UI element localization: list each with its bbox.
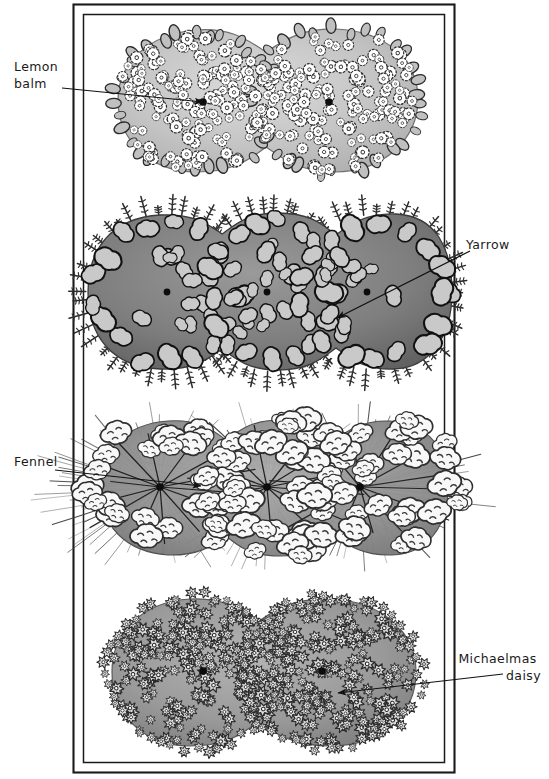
frond-barb	[209, 207, 212, 210]
frond-barb	[315, 372, 319, 373]
label-michaelmas-daisy-line-1: Michaelmas	[458, 651, 536, 666]
leaf	[106, 98, 122, 108]
frond-barb	[437, 227, 439, 230]
frond-barb	[460, 278, 461, 282]
frond-barb	[96, 240, 99, 242]
frond-barb	[103, 353, 105, 356]
frond-barb	[235, 366, 238, 369]
frond-barb	[245, 374, 248, 376]
frond-barb	[351, 381, 354, 383]
frond-barb	[463, 278, 464, 282]
frond-barb	[222, 356, 224, 359]
frond-barb	[447, 241, 448, 245]
frond-barb	[428, 365, 431, 366]
frond-barb	[116, 358, 118, 361]
planting-dot	[156, 483, 164, 491]
frond-barb	[122, 369, 124, 372]
frond-barb	[85, 245, 88, 247]
frond-barb	[226, 223, 230, 224]
frond-barb	[328, 364, 330, 367]
frond-barb	[79, 300, 80, 304]
flower-head	[337, 315, 352, 335]
planting-dot	[356, 483, 364, 491]
frond-barb	[381, 376, 385, 377]
frond-barb	[104, 224, 107, 225]
frond-barb	[218, 364, 222, 365]
planting-dot	[164, 289, 171, 296]
frond-barb	[413, 209, 416, 212]
floret	[178, 745, 191, 758]
planting-dot	[325, 98, 333, 106]
floret	[415, 689, 427, 701]
frond-barb	[411, 213, 414, 216]
plant-band-yarrow	[69, 195, 467, 392]
frond-barb	[76, 301, 77, 305]
flower-head	[85, 295, 101, 316]
frond-barb	[228, 358, 231, 359]
frond-barb	[326, 366, 328, 369]
frond-barb	[446, 351, 449, 353]
frond-barb	[286, 205, 289, 207]
frond-barb	[433, 355, 436, 357]
label-michaelmas-daisy-line-2: daisy	[506, 668, 541, 683]
label-yarrow-line-1: Yarrow	[465, 237, 510, 252]
frond-barb	[82, 300, 83, 304]
planting-dot	[263, 483, 271, 491]
flower-head	[182, 273, 202, 287]
frond-barb	[219, 220, 221, 223]
frond-barb	[388, 203, 391, 205]
floret	[418, 678, 431, 691]
frond-barb	[260, 204, 264, 205]
frond-barb	[252, 382, 255, 384]
frond-barb	[388, 207, 391, 209]
frond-barb	[246, 369, 249, 371]
frond-barb	[175, 379, 179, 380]
frond-barb	[155, 207, 159, 208]
frond-barb	[458, 324, 460, 327]
plant-band-fennel	[31, 402, 495, 571]
frond-barb	[282, 382, 286, 383]
floret	[207, 51, 216, 60]
frond-barb	[150, 377, 153, 379]
frond-barb	[121, 208, 125, 209]
frond-barb	[387, 211, 390, 213]
planting-dot	[264, 289, 271, 296]
label-yarrow: Yarrow	[465, 237, 510, 252]
plant-band-michaelmas-daisy	[96, 584, 431, 760]
planting-dot	[364, 289, 371, 296]
frond-barb	[105, 351, 107, 354]
frond-barb	[312, 368, 316, 369]
planting-dot	[318, 667, 326, 675]
frond-barb	[217, 363, 219, 366]
frond-barb	[174, 374, 178, 375]
frond-barb	[260, 208, 264, 209]
plan-canvas: Lemon balm Yarrow Fennel Michaelmas dais…	[0, 0, 549, 779]
frond-barb	[109, 230, 112, 231]
frond-barb	[114, 362, 116, 365]
frond-barb	[98, 242, 101, 244]
frond-barb	[220, 359, 222, 362]
frond-barb	[91, 341, 92, 345]
frond-barb	[111, 366, 113, 369]
frond-barb	[124, 213, 128, 214]
frond-barb	[313, 364, 315, 367]
frond-barb	[155, 210, 159, 211]
frond-barb	[89, 247, 92, 249]
leader-lines	[55, 88, 503, 693]
frond-barb	[221, 368, 225, 369]
leaf	[326, 18, 337, 34]
frond-barb	[175, 384, 179, 385]
frond-barb	[149, 381, 152, 383]
frond-barb	[360, 209, 364, 210]
frond-barb	[404, 204, 407, 206]
frond-barb	[124, 366, 126, 369]
frond-barb	[191, 214, 194, 216]
frond-barb	[352, 376, 355, 378]
frond-barb	[92, 249, 95, 251]
frond-barb	[106, 227, 109, 228]
frond-barb	[126, 363, 128, 366]
frond-barb	[260, 200, 264, 201]
frond-barb	[381, 371, 385, 372]
frond-barb	[136, 373, 139, 375]
planting-dot	[199, 667, 207, 675]
